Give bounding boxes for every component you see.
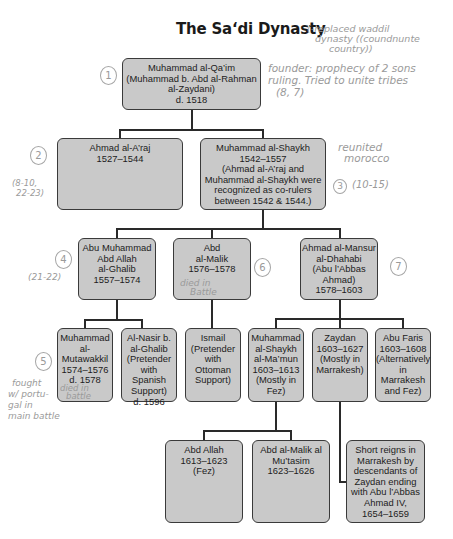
node-line: Marrakesh) (313, 365, 367, 376)
note-line: main battle (8, 411, 60, 422)
circled-number-2: 2 (30, 146, 47, 165)
node-short-reigns: Short reigns in Marrakesh by descendants… (346, 440, 425, 523)
node-zaydan: Zaydan 1603–1627 (Mostly in Marrakesh) (312, 328, 368, 402)
note-line: 22-23) (12, 188, 44, 198)
annotation-founder-note: founder: prophecy of 2 sons ruling. Trie… (268, 62, 416, 98)
node-abu-faris: Abu Faris 1603–1608 (Alternatively in Ma… (375, 328, 431, 402)
connector (339, 300, 341, 320)
node-line: Muhammad (58, 333, 112, 344)
node-line: Support) (122, 386, 176, 397)
node-abd-allah: Abd Allah 1613–1623 (Fez) (165, 440, 243, 523)
note-line: country)) (307, 44, 420, 54)
node-line: 1623–1626 (253, 466, 329, 477)
note-line: gal in (8, 400, 60, 411)
node-line: Muhammad (249, 333, 303, 344)
node-line: 1576–1578 (174, 264, 250, 275)
circled-number-7: 7 (390, 257, 407, 276)
note-line: w/ portu- (8, 389, 60, 400)
node-line: and Fez) (376, 386, 430, 397)
node-line: Muhammad al-Qa’im (123, 63, 260, 74)
node-ismail: Ismail (Pretender with Ottoman Support) (185, 328, 241, 402)
node-line: Abu Faris (376, 333, 430, 344)
circled-number-1: 1 (100, 66, 117, 85)
node-line: Ismail (186, 333, 240, 344)
node-ahmad-al-mansur: Ahmad al-Mansur al-Dhahabi (Abu l’Abbas … (300, 238, 378, 300)
note-line: morocco (338, 153, 389, 164)
annotation-title-note: (-replaced waddil dynasty ((coundnunte c… (307, 24, 420, 54)
node-muhammad-al-mamun: Muhammad al-Shaykh al-Ma’mun 1603–1613 (… (248, 328, 304, 402)
node-line: between 1542 & 1544.) (201, 196, 325, 207)
node-line: Ahmad al-Mansur (301, 243, 377, 254)
node-line: Support) (186, 375, 240, 386)
note-line: battle (60, 392, 91, 400)
node-abd-al-malik-al-mutasim: Abd al-Malik al Mu’tasim 1623–1626 (252, 440, 330, 523)
node-line: Short reigns in (347, 445, 424, 456)
note-line: Battle (180, 288, 217, 297)
node-line: Abu Muhammad (79, 243, 155, 254)
connector (339, 402, 341, 483)
note-line: fought (8, 378, 60, 389)
note-line: (8, 7) (268, 86, 416, 98)
connector (262, 210, 264, 230)
node-ahmad-al-araj: Ahmad al-A’raj 1527–1544 (57, 138, 183, 210)
circled-number-6: 6 (254, 258, 271, 277)
annotation-pages-4: (21-22) (28, 272, 61, 282)
node-muhammad-al-shaykh: Muhammad al-Shaykh 1542–1557 (Ahmad al-A… (200, 138, 326, 210)
circled-number-4: 4 (55, 250, 72, 269)
node-abd-allah-al-ghalib: Abu Muhammad Abd Allah al-Ghalib 1557–15… (78, 238, 156, 300)
connector (116, 300, 118, 320)
note-line: ruling. Tried to unite tribes (268, 74, 416, 86)
node-line: (Fez) (166, 466, 242, 477)
node-line: Muhammad al-Shaykh (201, 143, 325, 154)
node-line: Ahmad al-A’raj (58, 143, 182, 154)
node-muhammad-al-qaim: Muhammad al-Qa’im (Muhammad b. Abd al-Ra… (122, 58, 261, 110)
annotation-fought-note: fought w/ portu- gal in main battle (8, 378, 60, 422)
connector (191, 110, 193, 131)
annotation-pages-3: (10-15) (352, 180, 389, 190)
node-line: 1578–1603 (301, 285, 377, 296)
node-al-nasir: Al-Nasir b. al-Ghalib (Pretender with Sp… (121, 328, 177, 402)
node-line: Fez) (249, 386, 303, 397)
annotation-reunited-note: reunited morocco (338, 142, 389, 164)
annotation-mutawakkil-note: died in battle (60, 384, 91, 400)
node-line: Al-Nasir b. (122, 333, 176, 344)
node-line: Zaydan (313, 333, 367, 344)
diagram-title: The Sa‘di Dynasty (176, 20, 326, 38)
note-line: founder: prophecy of 2 sons (268, 62, 416, 74)
node-line: Abd Allah (166, 445, 242, 456)
connector (84, 319, 142, 321)
node-line: Abd (174, 243, 250, 254)
connector (119, 129, 263, 131)
circled-number-3: 3 (333, 179, 347, 194)
note-line: (8-10, (12, 178, 44, 188)
connector (116, 228, 340, 230)
connector (203, 430, 291, 432)
node-line: 1557–1574 (79, 275, 155, 286)
node-line: d. 1596 (122, 397, 176, 408)
connector (211, 300, 213, 329)
node-line: 1654–1659 (347, 509, 424, 520)
node-line: Abd al-Malik al (253, 445, 329, 456)
node-line: 1527–1544 (58, 154, 182, 165)
node-line: Ahmad IV, (347, 498, 424, 509)
circled-number-5: 5 (35, 352, 52, 371)
connector (275, 402, 277, 432)
node-line: d. 1518 (123, 95, 260, 106)
annotation-malik-note: died in Battle (180, 279, 217, 297)
annotation-pages-2: (8-10, 22-23) (12, 178, 44, 198)
